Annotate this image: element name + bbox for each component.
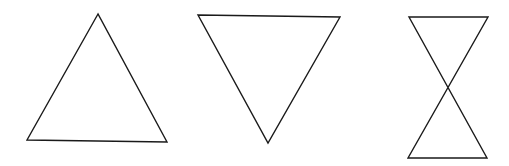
downward-triangle [198,15,340,143]
shapes-canvas [0,0,509,166]
hourglass [408,17,488,158]
upward-triangle [27,14,167,142]
